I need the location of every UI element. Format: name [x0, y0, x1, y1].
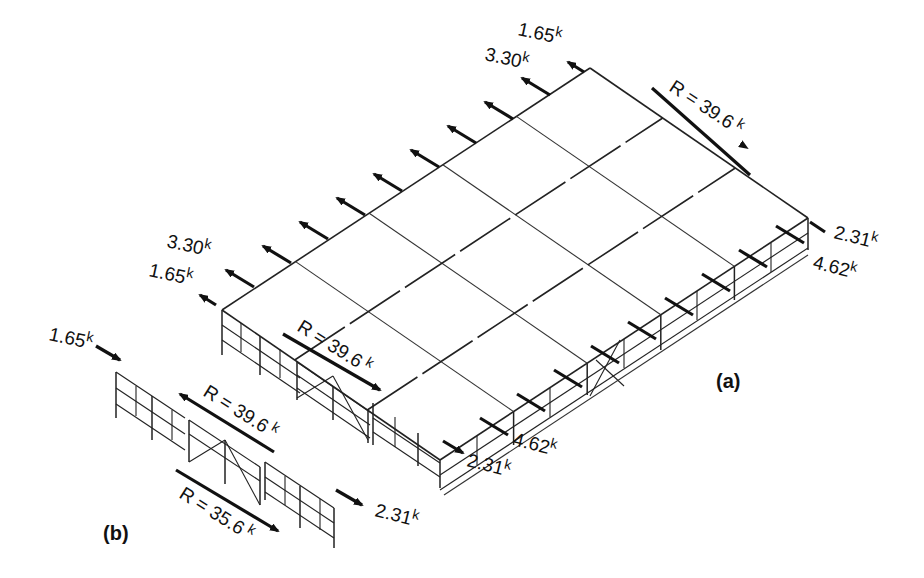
- load-label-4.62-front: 4.62k: [511, 426, 560, 460]
- panel-label-a: (a): [716, 370, 740, 392]
- load-arrow-2.31-b: [336, 490, 362, 505]
- panel-label-b: (b): [103, 522, 129, 544]
- load-arrow-1.65-b: [96, 346, 120, 360]
- back-edge-load-arrows: [200, 62, 584, 305]
- load-label-3.30-left: 3.30k: [165, 227, 214, 260]
- load-label-1.65-left: 1.65k: [147, 256, 196, 289]
- load-label-2.31-b: 2.31k: [373, 497, 422, 531]
- front-wall-load-arrows: [443, 222, 825, 453]
- load-label-4.62-right: 4.62k: [811, 249, 860, 283]
- load-label-2.31-right: 2.31k: [832, 219, 881, 253]
- structural-isometric-diagram: 3.30k 1.65k 3.30k 1.65k R = 39.6k R = 39…: [0, 0, 924, 578]
- load-label-3.30-top: 3.30k: [483, 40, 532, 73]
- load-label-1.65-b: 1.65k: [47, 320, 96, 353]
- load-label-1.65-top: 1.65k: [516, 15, 565, 48]
